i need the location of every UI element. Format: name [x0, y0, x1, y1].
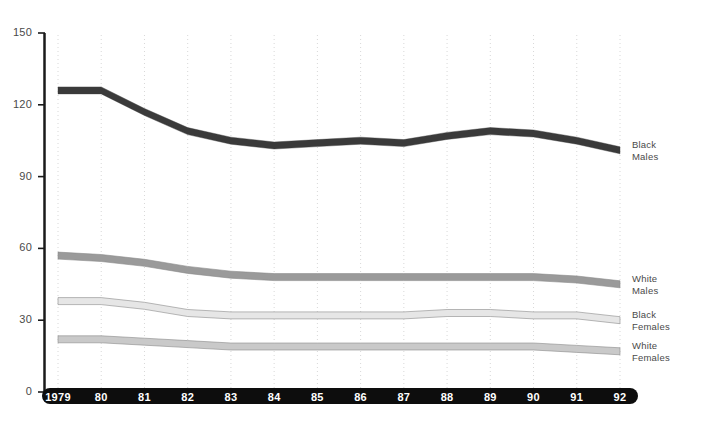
legend-label-black-females: Black Females — [632, 309, 670, 332]
y-axis-tick-label: 30 — [4, 313, 32, 325]
chart-container: 1501209060300 19798081828384858687888990… — [0, 0, 706, 428]
y-axis-tick-label: 0 — [4, 385, 32, 397]
line-area-chart — [0, 0, 706, 428]
series-band — [58, 336, 620, 355]
x-axis-tick-label: 88 — [441, 391, 454, 403]
x-axis-tick-label: 85 — [311, 391, 324, 403]
x-axis-tick-label: 80 — [95, 391, 108, 403]
x-axis-tick-label: 87 — [397, 391, 410, 403]
legend-label-white-females: White Females — [632, 340, 670, 363]
x-axis-tick-label: 92 — [614, 391, 627, 403]
legend-label-black-males: Black Males — [632, 139, 658, 162]
series-band — [58, 87, 620, 154]
x-axis-tick-label: 86 — [354, 391, 367, 403]
x-axis-bar — [42, 388, 638, 404]
y-axis-tick-label: 120 — [4, 98, 32, 110]
y-axis-tick-label: 60 — [4, 241, 32, 253]
x-axis-tick-label: 81 — [138, 391, 151, 403]
x-axis-tick-label: 91 — [570, 391, 583, 403]
x-axis-tick-label: 82 — [181, 391, 194, 403]
x-axis-tick-label: 90 — [527, 391, 540, 403]
x-axis-tick-label: 1979 — [45, 391, 71, 403]
series-band — [58, 252, 620, 288]
y-axis-tick-label: 90 — [4, 170, 32, 182]
x-axis-tick-label: 89 — [484, 391, 497, 403]
series-band — [58, 298, 620, 324]
y-axis-tick-label: 150 — [4, 26, 32, 38]
legend-label-white-males: White Males — [632, 273, 658, 296]
x-axis-tick-label: 83 — [225, 391, 238, 403]
x-axis-tick-label: 84 — [268, 391, 281, 403]
